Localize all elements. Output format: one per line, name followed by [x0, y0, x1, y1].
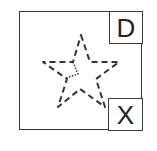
d-button-label: D	[117, 15, 136, 41]
d-button[interactable]: D	[109, 11, 143, 44]
close-button-label: X	[117, 102, 134, 128]
close-button[interactable]: X	[108, 98, 143, 131]
